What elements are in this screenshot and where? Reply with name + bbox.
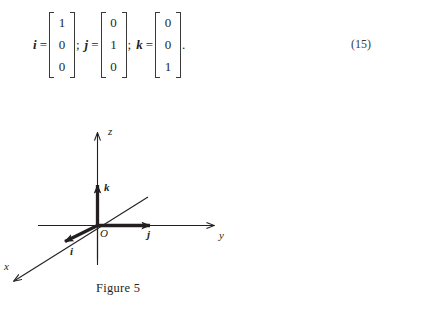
equation-number: (15) — [351, 37, 371, 52]
matrix-entry: 0 — [56, 56, 68, 78]
column-matrix-j: 0 1 0 — [101, 12, 127, 78]
equals-sign-i: = — [40, 37, 49, 53]
separator-semicolon-i: ; — [75, 37, 85, 53]
equals-sign-k: = — [146, 37, 155, 53]
x-axis — [14, 197, 148, 281]
equation-expression: i = 1 0 0 ; j = 0 1 0 ; k = 0 — [33, 9, 185, 81]
equals-sign-j: = — [91, 37, 100, 53]
column-matrix-k: 0 0 1 — [155, 12, 181, 78]
separator-semicolon-j: ; — [127, 37, 137, 53]
figure-5: z y x O k j i Figure 5 — [0, 95, 425, 309]
origin-label: O — [100, 227, 108, 239]
coordinate-axes-diagram — [0, 95, 425, 309]
equation-block: i = 1 0 0 ; j = 0 1 0 ; k = 0 — [0, 0, 425, 95]
matrix-entry: 0 — [108, 56, 120, 78]
matrix-entry: 0 — [56, 34, 68, 56]
vector-j-label: j — [147, 228, 150, 240]
vector-definition-i: i = 1 0 0 ; — [33, 9, 85, 81]
vector-definition-k: k = 0 0 1 . — [136, 9, 185, 81]
matrix-entry: 0 — [162, 12, 174, 34]
matrix-entry: 0 — [108, 12, 120, 34]
equation-terminator: . — [181, 37, 185, 53]
matrix-entry: 1 — [56, 12, 68, 34]
z-axis-label: z — [108, 125, 112, 137]
column-matrix-i: 1 0 0 — [49, 12, 75, 78]
vector-i-label: i — [70, 245, 73, 257]
vector-definition-j: j = 0 1 0 ; — [85, 9, 137, 81]
x-axis-line — [14, 197, 148, 281]
matrix-entry: 1 — [108, 34, 120, 56]
matrix-entry: 1 — [162, 56, 174, 78]
x-axis-label: x — [4, 260, 9, 272]
matrix-entry: 0 — [162, 34, 174, 56]
vector-k-label: k — [104, 181, 110, 193]
vector-symbol-i: i — [33, 37, 40, 53]
figure-caption: Figure 5 — [96, 281, 140, 296]
y-axis-label: y — [219, 229, 224, 241]
vector-symbol-k: k — [136, 37, 146, 53]
vector-symbol-j: j — [85, 37, 92, 53]
